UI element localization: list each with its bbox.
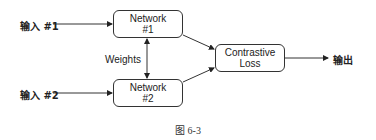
input-2-label: 输入 #2 — [20, 87, 59, 102]
network-1-title: Network — [130, 13, 167, 24]
arrow-network2-to-loss — [183, 68, 214, 82]
siamese-network-diagram: 输入 #1 输入 #2 Network #1 Weights Network #… — [0, 0, 376, 140]
input-1-label: 输入 #1 — [20, 18, 59, 33]
network-2-box: Network #2 — [113, 79, 183, 107]
weights-label: Weights — [105, 54, 141, 65]
network-2-index: #2 — [142, 93, 153, 104]
network-1-box: Network #1 — [113, 10, 183, 38]
network-1-index: #1 — [142, 24, 153, 35]
network-2-title: Network — [130, 82, 167, 93]
arrow-network1-to-loss — [183, 35, 214, 49]
loss-line-2: Loss — [239, 58, 260, 69]
contrastive-loss-box: Contrastive Loss — [215, 44, 285, 72]
output-label: 输出 — [333, 52, 353, 67]
figure-caption: 图 6-3 — [0, 122, 376, 137]
loss-line-1: Contrastive — [225, 47, 276, 58]
